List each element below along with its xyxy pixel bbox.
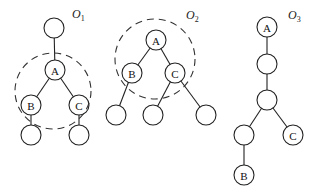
node-label: B xyxy=(27,100,34,112)
node-circle xyxy=(234,125,254,145)
tree-node xyxy=(143,105,163,125)
node-circle xyxy=(69,125,89,145)
node-circle xyxy=(257,54,277,74)
tree-o1: ABCO1 xyxy=(15,7,91,145)
tree-o2: ABCO2 xyxy=(106,8,216,125)
tree-node xyxy=(257,90,277,110)
tree-node xyxy=(196,105,216,125)
tree-node xyxy=(44,18,64,38)
tree-node xyxy=(21,125,41,145)
tree-node-c: C xyxy=(69,95,89,115)
tree-diagram: ABCO1 ABCO2 ACBO3 xyxy=(0,0,317,195)
tree-node-b: B xyxy=(234,165,254,185)
tree-o3: ACBO3 xyxy=(234,8,303,185)
tree-node-c: C xyxy=(283,125,303,145)
tree-label: O1 xyxy=(72,7,85,23)
node-circle xyxy=(44,18,64,38)
node-circle xyxy=(196,105,216,125)
tree-node-a: A xyxy=(146,30,166,50)
node-circle xyxy=(143,105,163,125)
node-label: A xyxy=(152,35,160,47)
tree-label: O3 xyxy=(288,8,301,24)
tree-node xyxy=(257,54,277,74)
node-label: A xyxy=(51,65,59,77)
tree-node-b: B xyxy=(21,95,41,115)
node-label: B xyxy=(240,170,247,182)
tree-node-a: A xyxy=(45,60,65,80)
tree-label: O2 xyxy=(186,8,199,24)
tree-node-c: C xyxy=(165,63,185,83)
tree-node xyxy=(234,125,254,145)
node-label: C xyxy=(75,100,82,112)
tree-node xyxy=(106,105,126,125)
tree-node-b: B xyxy=(122,63,142,83)
node-circle xyxy=(106,105,126,125)
node-label: C xyxy=(289,130,296,142)
tree-node-a: A xyxy=(257,17,277,37)
node-label: C xyxy=(171,68,178,80)
node-circle xyxy=(257,90,277,110)
tree-node xyxy=(69,125,89,145)
node-label: A xyxy=(263,22,271,34)
node-circle xyxy=(21,125,41,145)
node-label: B xyxy=(128,68,135,80)
